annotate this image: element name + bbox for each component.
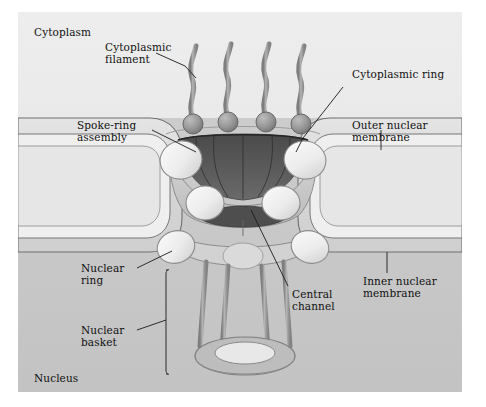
label-outer-nuclear-membrane-line1: Outer nuclear — [352, 119, 428, 131]
label-central-channel-line1: Central — [292, 288, 333, 300]
inner-nuclear-membrane-right — [320, 146, 462, 226]
mid-ring-lobe-right — [262, 186, 300, 220]
label-nuclear-ring-line1: Nuclear — [81, 262, 124, 274]
label-spoke-ring-assembly-line2: assembly — [77, 131, 127, 143]
label-cytoplasmic-filament-line2: filament — [105, 53, 150, 65]
filament-anchor-sphere-2 — [218, 112, 238, 132]
label-nuclear-basket-line1: Nuclear — [81, 324, 124, 336]
label-central-channel-line2: channel — [292, 300, 335, 312]
filament-anchor-sphere-3 — [256, 112, 276, 132]
label-outer-nuclear-membrane-line2: membrane — [352, 131, 410, 143]
mid-ring-lobe-left — [186, 186, 224, 220]
label-cytoplasmic-filament-line1: Cytoplasmic — [105, 41, 172, 53]
label-spoke-ring-assembly-line1: Spoke-ring — [77, 119, 136, 131]
label-inner-nuclear-membrane-line1: Inner nuclear — [363, 275, 437, 287]
nuclear-pore-complex-figure: Cytoplasm Nucleus Cytoplasmic filament S… — [0, 0, 486, 407]
label-nuclear-ring-line2: ring — [81, 274, 103, 286]
label-cytoplasm: Cytoplasm — [34, 26, 91, 38]
label-cytoplasmic-ring: Cytoplasmic ring — [352, 68, 444, 80]
filament-anchor-sphere-1 — [183, 114, 203, 134]
label-inner-nuclear-membrane-line2: membrane — [363, 287, 421, 299]
diagram-canvas — [0, 0, 486, 407]
inner-nuclear-membrane-left — [18, 146, 160, 226]
label-nucleus: Nucleus — [34, 372, 78, 384]
label-nuclear-basket-line2: basket — [81, 336, 117, 348]
basket-terminal-ring-inner — [215, 342, 275, 364]
